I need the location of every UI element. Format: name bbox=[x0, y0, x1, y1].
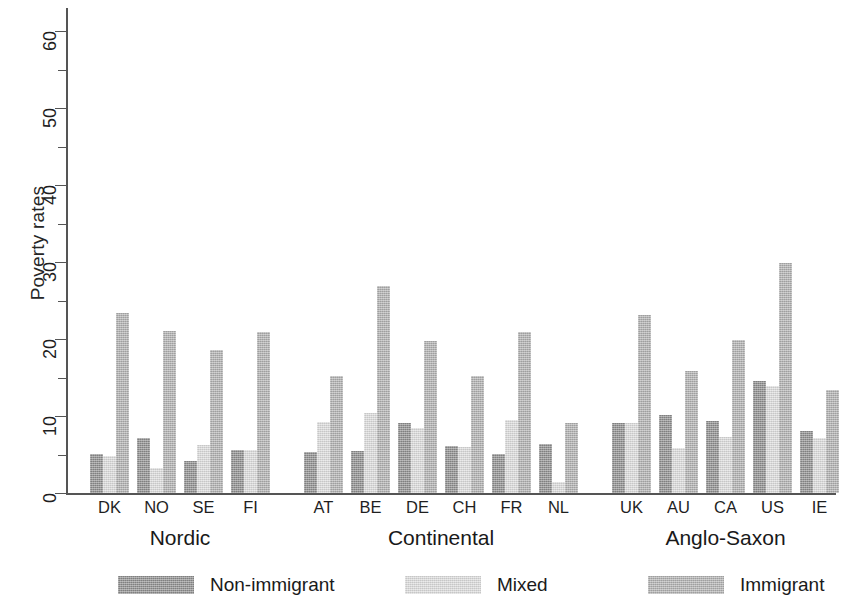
group-label-anglo-saxon: Anglo-Saxon bbox=[665, 526, 785, 550]
bar-de-mixed bbox=[411, 428, 424, 493]
y-tick-minor bbox=[58, 147, 66, 148]
x-tick-label-nl: NL bbox=[548, 498, 569, 517]
bar-fr-immigrant bbox=[518, 332, 531, 493]
bar-uk-non-immigrant bbox=[612, 423, 625, 493]
y-tick-label: 50 bbox=[40, 108, 61, 128]
bar-fr-mixed bbox=[505, 420, 518, 493]
legend-label: Non-immigrant bbox=[210, 574, 335, 596]
legend-item-non-immigrant: Non-immigrant bbox=[118, 570, 335, 600]
x-tick-label-fr: FR bbox=[501, 498, 523, 517]
x-tick-label-ca: CA bbox=[714, 498, 737, 517]
bar-au-immigrant bbox=[685, 371, 698, 493]
bar-se-immigrant bbox=[210, 350, 223, 493]
bar-no-non-immigrant bbox=[137, 438, 150, 493]
bar-at-mixed bbox=[317, 422, 330, 493]
bar-us-immigrant bbox=[779, 263, 792, 493]
bar-dk-non-immigrant bbox=[90, 454, 103, 493]
bar-ie-non-immigrant bbox=[800, 431, 813, 493]
x-tick-label-at: AT bbox=[314, 498, 334, 517]
bar-ie-immigrant bbox=[826, 390, 839, 493]
legend-label: Mixed bbox=[497, 574, 548, 596]
bar-au-non-immigrant bbox=[659, 415, 672, 493]
group-label-nordic: Nordic bbox=[150, 526, 211, 550]
bar-ch-non-immigrant bbox=[445, 446, 458, 493]
bar-no-mixed bbox=[150, 468, 163, 493]
x-tick-label-de: DE bbox=[406, 498, 429, 517]
bar-se-mixed bbox=[197, 445, 210, 493]
x-tick-label-ch: CH bbox=[453, 498, 477, 517]
legend-item-mixed: Mixed bbox=[405, 570, 548, 600]
y-tick-label: 60 bbox=[40, 31, 61, 51]
x-tick-label-fi: FI bbox=[243, 498, 258, 517]
y-tick-minor bbox=[58, 301, 66, 302]
bar-dk-immigrant bbox=[116, 313, 129, 493]
bar-us-mixed bbox=[766, 386, 779, 493]
bar-us-non-immigrant bbox=[753, 381, 766, 493]
bar-no-immigrant bbox=[163, 331, 176, 493]
bar-ch-mixed bbox=[458, 447, 471, 493]
bar-at-immigrant bbox=[330, 376, 343, 493]
bar-dk-mixed bbox=[103, 456, 116, 493]
x-tick-label-au: AU bbox=[667, 498, 690, 517]
bar-au-mixed bbox=[672, 448, 685, 493]
y-axis-title: Poverty rates bbox=[27, 113, 49, 373]
bar-ca-immigrant bbox=[732, 340, 745, 493]
y-tick-label: 30 bbox=[40, 262, 61, 282]
bar-nl-mixed bbox=[552, 482, 565, 493]
y-tick-label: 20 bbox=[40, 339, 61, 359]
bar-se-non-immigrant bbox=[184, 461, 197, 493]
legend-swatch-icon bbox=[405, 576, 481, 594]
bar-be-immigrant bbox=[377, 286, 390, 493]
legend-item-immigrant: Immigrant bbox=[648, 570, 824, 600]
x-tick-label-no: NO bbox=[144, 498, 169, 517]
bar-nl-immigrant bbox=[565, 423, 578, 493]
y-tick-minor bbox=[58, 224, 66, 225]
bar-ca-non-immigrant bbox=[706, 421, 719, 493]
bar-uk-immigrant bbox=[638, 315, 651, 493]
plot-area: 0102030405060 bbox=[66, 8, 836, 494]
y-tick-minor bbox=[58, 455, 66, 456]
chart-legend: Non-immigrantMixedImmigrant bbox=[0, 570, 842, 604]
bar-ch-immigrant bbox=[471, 376, 484, 493]
x-axis-group-labels: NordicContinentalAnglo-SaxonSouthern bbox=[66, 526, 836, 556]
legend-swatch-icon bbox=[118, 576, 194, 594]
x-tick-label-be: BE bbox=[359, 498, 381, 517]
legend-label: Immigrant bbox=[740, 574, 824, 596]
bar-at-non-immigrant bbox=[304, 452, 317, 493]
bar-fi-non-immigrant bbox=[231, 450, 244, 493]
y-tick-label: 0 bbox=[40, 493, 61, 503]
y-tick-minor bbox=[58, 70, 66, 71]
legend-swatch-icon bbox=[648, 576, 724, 594]
bar-ie-mixed bbox=[813, 438, 826, 493]
y-tick-label: 10 bbox=[40, 416, 61, 436]
x-tick-label-dk: DK bbox=[98, 498, 121, 517]
x-tick-label-us: US bbox=[761, 498, 784, 517]
bar-be-mixed bbox=[364, 413, 377, 493]
x-tick-label-uk: UK bbox=[620, 498, 643, 517]
y-tick-label: 40 bbox=[40, 185, 61, 205]
x-tick-label-se: SE bbox=[192, 498, 214, 517]
group-label-continental: Continental bbox=[388, 526, 494, 550]
bar-de-immigrant bbox=[424, 341, 437, 493]
bar-uk-mixed bbox=[625, 423, 638, 493]
bar-fi-mixed bbox=[244, 450, 257, 493]
bar-de-non-immigrant bbox=[398, 423, 411, 493]
bar-series-container bbox=[66, 8, 836, 494]
bar-fi-immigrant bbox=[257, 332, 270, 493]
bar-fr-non-immigrant bbox=[492, 454, 505, 493]
x-axis-tick-labels: DKNOSEFIATBEDECHFRNLUKAUCAUSIEESGRITPT bbox=[66, 498, 836, 520]
x-tick-label-ie: IE bbox=[812, 498, 828, 517]
bar-nl-non-immigrant bbox=[539, 444, 552, 493]
poverty-rates-bar-chart: Poverty rates 0102030405060 DKNOSEFIATBE… bbox=[0, 0, 842, 611]
bar-ca-mixed bbox=[719, 437, 732, 493]
y-tick-minor bbox=[58, 378, 66, 379]
bar-be-non-immigrant bbox=[351, 451, 364, 493]
